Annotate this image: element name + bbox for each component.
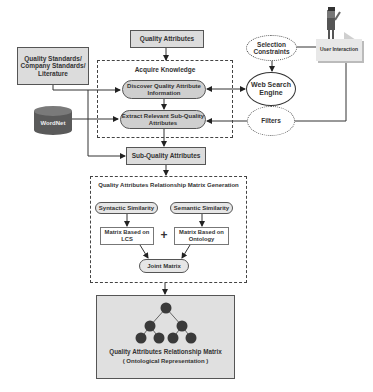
- user-interaction-label: User Interaction: [316, 39, 362, 61]
- output-title: Quality Attributes Relationship Matrix: [97, 348, 234, 355]
- selection-constraints-node: Selection Constraints: [246, 35, 297, 61]
- acquire-knowledge-title: Acquire Knowledge: [98, 66, 232, 73]
- web-search-engine-node: Web Search Engine: [246, 72, 296, 106]
- output-subtitle: ( Ontological Representation ): [97, 358, 234, 365]
- discover-node: Discover Quality Attribute Information: [122, 80, 206, 99]
- wordnet-database: WordNet: [33, 106, 73, 136]
- output-matrix-box: Quality Attributes Relationship Matrix (…: [96, 295, 235, 379]
- extract-node: Extract Relevant Sub-Quality Attributes: [120, 110, 206, 129]
- quality-attributes-box: Quality Attributes: [130, 30, 204, 48]
- wordnet-label: WordNet: [33, 116, 73, 130]
- plus-symbol: +: [158, 228, 170, 244]
- user-interaction-node: User Interaction: [314, 4, 364, 64]
- tree-hierarchy-icon: [97, 296, 236, 346]
- semantic-similarity-node: Semantic Similarity: [170, 202, 233, 214]
- matrix-lcs-box: Matrix Based on LCS: [100, 227, 154, 245]
- filters-node: Filters: [247, 106, 295, 136]
- matrix-generation-title: Quality Attributes Relationship Matrix G…: [91, 182, 246, 189]
- quality-standards-box: Quality Standards/ Company Standards/ Li…: [17, 47, 89, 85]
- syntactic-similarity-node: Syntactic Similarity: [95, 202, 158, 214]
- joint-matrix-node: Joint Matrix: [139, 259, 189, 273]
- sub-quality-attributes-box: Sub-Quality Attributes: [126, 147, 206, 165]
- user-figure-icon: [314, 4, 364, 44]
- matrix-ontology-box: Matrix Based on Ontology: [174, 227, 229, 245]
